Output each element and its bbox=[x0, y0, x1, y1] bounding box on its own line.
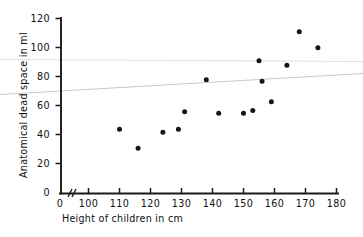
x-tick-label-origin: 0 bbox=[57, 198, 64, 209]
data-point bbox=[269, 99, 274, 104]
y-axis bbox=[56, 18, 62, 194]
trend-lines-group bbox=[0, 60, 363, 95]
x-tick-labels: 0 100 110 120 130 140 150 160 170 180 bbox=[57, 198, 347, 209]
x-tick-label-170: 170 bbox=[296, 198, 316, 209]
y-tick-label-120: 120 bbox=[30, 13, 50, 24]
data-point bbox=[182, 109, 187, 114]
y-tick-label-40: 40 bbox=[37, 129, 50, 140]
y-tick-labels: 120 100 80 60 40 20 0 bbox=[30, 13, 50, 198]
plot-canvas: 120 100 80 60 40 20 0 0 100 110 120 130 … bbox=[0, 0, 363, 237]
x-tick-label-130: 130 bbox=[172, 198, 192, 209]
x-tick-label-160: 160 bbox=[265, 198, 285, 209]
y-tick-label-60: 60 bbox=[37, 100, 50, 111]
data-point bbox=[297, 29, 302, 34]
regression-line bbox=[0, 74, 363, 95]
y-tick-label-0: 0 bbox=[43, 187, 50, 198]
data-point bbox=[160, 130, 165, 135]
x-tick-label-150: 150 bbox=[234, 198, 254, 209]
x-tick-label-100: 100 bbox=[79, 198, 99, 209]
data-point bbox=[176, 127, 181, 132]
data-point bbox=[250, 108, 255, 113]
y-axis-title: Anatomical dead space in ml bbox=[18, 32, 29, 178]
data-point bbox=[216, 111, 221, 116]
y-tick-label-100: 100 bbox=[30, 42, 50, 53]
scatter-plot-figure: 120 100 80 60 40 20 0 0 100 110 120 130 … bbox=[0, 0, 363, 237]
x-tick-label-110: 110 bbox=[110, 198, 130, 209]
x-tick-label-120: 120 bbox=[141, 198, 161, 209]
y-tick-label-80: 80 bbox=[37, 71, 50, 82]
data-point bbox=[257, 58, 262, 63]
x-axis bbox=[60, 188, 338, 197]
data-point bbox=[284, 63, 289, 68]
x-tick-label-140: 140 bbox=[203, 198, 223, 209]
faint-guide-line bbox=[0, 60, 363, 62]
data-point bbox=[241, 111, 246, 116]
x-axis-title: Height of children in cm bbox=[62, 213, 183, 224]
data-point bbox=[117, 127, 122, 132]
data-point bbox=[204, 77, 209, 82]
data-points-group bbox=[117, 29, 320, 151]
data-point bbox=[260, 79, 265, 84]
data-point bbox=[315, 45, 320, 50]
y-tick-label-20: 20 bbox=[37, 158, 50, 169]
x-tick-label-180: 180 bbox=[327, 198, 347, 209]
data-point bbox=[136, 146, 141, 151]
